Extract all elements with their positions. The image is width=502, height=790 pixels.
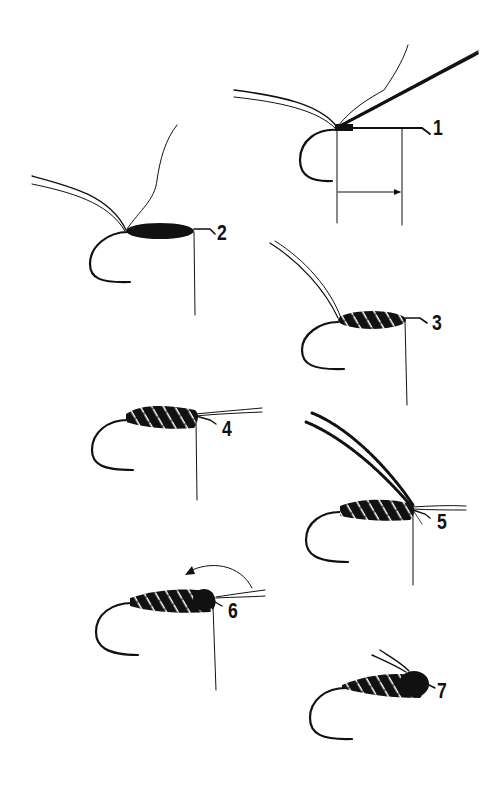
step-5-illustration <box>306 413 466 585</box>
step-label-7: 7 <box>437 680 447 702</box>
step-4-illustration <box>92 406 262 500</box>
step-3-illustration <box>270 241 427 405</box>
step-6-illustration <box>96 565 265 690</box>
step-7-illustration <box>310 650 435 739</box>
step-label-5: 5 <box>437 511 447 533</box>
step-label-4: 4 <box>222 418 232 440</box>
step-label-6: 6 <box>228 600 238 622</box>
step-2-illustration <box>32 125 215 315</box>
fly-tying-diagram: 1 2 3 4 5 6 7 <box>0 0 502 790</box>
step-label-1: 1 <box>433 117 443 139</box>
diagram-artwork <box>0 0 502 790</box>
step-label-2: 2 <box>217 222 227 244</box>
step-label-3: 3 <box>432 312 442 334</box>
